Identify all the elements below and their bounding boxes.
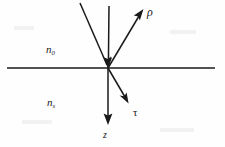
optics-figure: n0 ns ρ τ z [0,0,225,147]
ray-diagram-svg [0,0,225,147]
reflected-ray [108,9,144,68]
incident-vertical-ray [104,6,112,69]
z-axis-ray [104,68,113,125]
transmitted-ray [108,68,129,104]
label-refractive-index-lower: ns [47,97,55,110]
label-z-axis: z [103,130,107,140]
label-reflected-ray: ρ [147,6,153,18]
label-transmitted-ray: τ [133,107,137,118]
label-refractive-index-upper: n0 [46,44,55,57]
